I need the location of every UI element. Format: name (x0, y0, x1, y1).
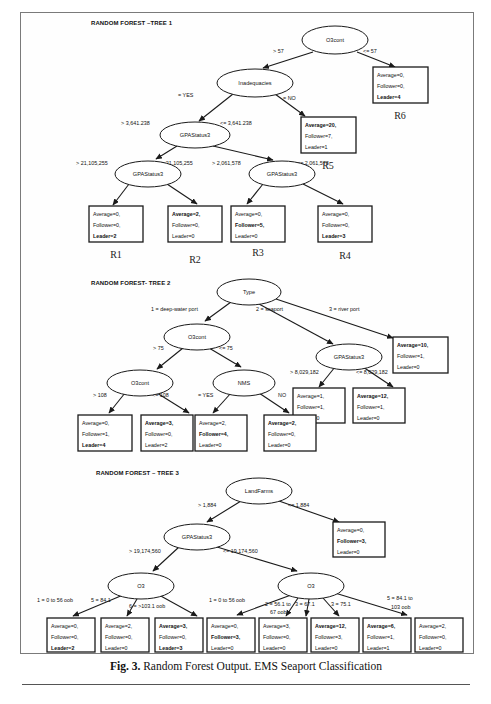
edge-o3-t2a-gt75 (157, 348, 183, 369)
leaf-t2-o3-gt108-line-2: Leader=4 (82, 442, 105, 448)
leaf-t2-gpa-gt-line-1: Follower=1, (297, 404, 325, 410)
leaf-r3-line-0: Average=0, (235, 211, 262, 217)
node-gpastatus3-t3-label: GPAStatus3 (182, 534, 212, 540)
edge-gpa-t2-gt-label: > 8,029,182 (290, 369, 319, 375)
edge-landfarms-le-label: <= 1,884 (288, 502, 309, 508)
node-o3cont-t2b-label: O3cont (131, 380, 149, 386)
edge-landfarms-gt-label: > 1,884 (198, 502, 216, 508)
leaf-t2-o3-le108-line-2: Leader=2 (145, 442, 168, 448)
leaf-t3-b-line-1: Follower=0, (105, 634, 133, 640)
edge-o3l-1-label: 1 = 0 to 56 oob (37, 597, 73, 603)
leaf-t2-nms-yes-line-0: Average=2, (199, 420, 226, 426)
leaf-t3-c-line-1: Follower=0, (159, 634, 187, 640)
leaf-r3-region-label: R3 (252, 247, 264, 258)
leaf-r1-line-2: Leader=2 (93, 233, 116, 239)
edge-o3r-2-label: 2 = 56.1 to (265, 601, 291, 607)
leaf-t3-d-line-2: Leader=0 (211, 645, 234, 651)
leaf-t3-f-line-0: Average=12, (315, 623, 347, 629)
leaf-t3-d-line-1: Follower=3, (211, 634, 241, 640)
leaf-t3-e-line-2: Leader=0 (263, 645, 286, 651)
leaf-r5-line-1: Follower=7, (305, 133, 333, 139)
leaf-t2-o3-gt108-line-1: Follower=1, (82, 431, 110, 437)
edge-gpa-a-gt-label: > 3,641.238 (121, 120, 150, 126)
leaf-r5-line-2: Leader=1 (305, 144, 328, 150)
edge-o3r-3b-label: 3 = 75.1 (331, 601, 351, 607)
edge-type-deepwater (205, 302, 231, 321)
edge-gpa-b-gt-label: > 21,105,255 (76, 160, 108, 166)
leaf-r2-line-0: Average=2, (172, 211, 201, 217)
leaf-t2-o3-le108-line-1: Follower=0, (145, 431, 173, 437)
leaf-t2-o3-le108-line-0: Average=3, (145, 420, 174, 426)
edge-inad-yes-label: = YES (178, 92, 194, 98)
leaf-t3-h-line-2: Leader=0 (419, 645, 442, 651)
tree-1: RANDOM FOREST –TREE 1> 57<= 57= YES= NO>… (76, 20, 428, 265)
leaf-t3-e-line-0: Average=3, (263, 623, 290, 629)
edge-gpa-t3-gt-label: > 19,174,560 (129, 548, 161, 554)
node-o3-left-label: O3 (137, 583, 144, 589)
edge-type-riverport-label: 3 = river port (329, 306, 360, 312)
edge-gpa-c-le (303, 184, 343, 204)
leaf-t2-nms-no-line-1: Follower=0, (268, 431, 296, 437)
leaf-r4-region-label: R4 (339, 250, 351, 261)
leaf-t3-b-line-2: Leader=0 (105, 645, 128, 651)
edge-gpa-a-le-label: <= 3,641.238 (220, 120, 252, 126)
leaf-t3-g-line-1: Follower=1, (367, 634, 395, 640)
edge-gpa-t3-le-label: <= 19,174,560 (223, 548, 258, 554)
edge-o3cont-le57-label: <= 57 (363, 48, 377, 54)
node-type-root-label: Type (243, 289, 255, 295)
node-gpastatus3-b-label: GPAStatus3 (133, 171, 163, 177)
page-rule (22, 684, 470, 685)
node-o3-right-label: O3 (307, 583, 314, 589)
leaf-t2-nms-yes-line-2: Leader=0 (199, 442, 222, 448)
leaf-r2-region-label: R2 (189, 254, 201, 265)
edge-o3r-5b-label: 103 oob (391, 604, 411, 610)
leaf-r1-region-label: R1 (110, 249, 122, 260)
tree-3-title: RANDOM FOREST – TREE 3 (96, 470, 179, 476)
leaf-t3-c-line-0: Average=3, (159, 623, 188, 629)
edge-o3-t2b-gt108-label: > 108 (93, 392, 107, 398)
leaf-t2-nms-yes-line-1: Follower=4, (199, 431, 229, 437)
node-gpastatus3-t2-label: GPAStatus3 (334, 354, 364, 360)
leaf-t3-b-line-0: Average=2, (105, 623, 132, 629)
leaf-r6-line-1: Follower=0, (377, 83, 405, 89)
edge-o3cont-le57 (357, 52, 395, 67)
leaf-t2-riverport-line-2: Leader=0 (397, 364, 420, 370)
edge-nms-yes (213, 393, 231, 413)
caption-label: Fig. 3. (110, 660, 140, 672)
edge-gpa-t2-le-label: <= 8,029,182 (356, 369, 388, 375)
leaf-r1-line-1: Follower=0, (93, 222, 121, 228)
figure-caption: Fig. 3. Random Forest Output. EMS Seapor… (20, 660, 472, 672)
leaf-r3-line-2: Leader=0 (235, 233, 258, 239)
leaf-t3-a-line-0: Average=0, (51, 623, 78, 629)
leaf-r3-line-1: Follower=5, (235, 222, 265, 228)
leaf-r5-line-0: Average=20, (305, 122, 337, 128)
leaf-r4-line-0: Average=0, (322, 211, 349, 217)
leaf-t2-nms-no-line-0: Average=2, (268, 420, 297, 426)
node-nms-label: NMS (238, 380, 251, 386)
edge-o3r-1-label: 1 = 0 to 56 oob (209, 597, 245, 603)
leaf-t3-f-line-1: Follower=3, (315, 634, 343, 640)
leaf-r1-line-0: Average=0, (93, 211, 120, 217)
leaf-t3-a-line-2: Leader=2 (51, 645, 74, 651)
leaf-t2-gpa-le-line-2: Leader=0 (357, 415, 380, 421)
leaf-t3-g-line-2: Leader=1 (367, 645, 390, 651)
edge-type-deepwater-label: 1 = deep-water port (151, 306, 198, 312)
tree-2-title: RANDOM FOREST- TREE 2 (91, 280, 171, 286)
node-o3cont-t2a-label: O3cont (188, 334, 206, 340)
leaf-t2-nms-no-line-2: Leader=0 (268, 442, 291, 448)
leaf-r4-line-2: Leader=3 (322, 233, 345, 239)
edge-o3r-5-label: 5 = 84.1 to (387, 595, 413, 601)
edge-o3-t2b-gt108 (109, 393, 125, 413)
edge-o3l-6-label: 6 = >103.1 oob (129, 603, 165, 609)
leaf-t3-h-line-0: Average=2, (419, 623, 446, 629)
leaf-t3-f-line-2: Leader=0 (315, 645, 338, 651)
leaf-t3-c-line-2: Leader=3 (159, 645, 182, 651)
leaf-t3-e-line-1: Follower=0, (263, 634, 291, 640)
tree-1-title: RANDOM FOREST –TREE 1 (91, 20, 173, 26)
edge-inad-no-label: = NO (283, 95, 296, 101)
tree-2: RANDOM FOREST- TREE 21 = deep-water port… (78, 279, 448, 451)
leaf-t3-g-line-0: Average=6, (367, 623, 396, 629)
edge-o3-t2a-gt75-label: > 75 (153, 345, 164, 351)
leaf-r6-region-label: R6 (394, 110, 406, 121)
leaf-r2-line-1: Follower=0, (172, 222, 200, 228)
